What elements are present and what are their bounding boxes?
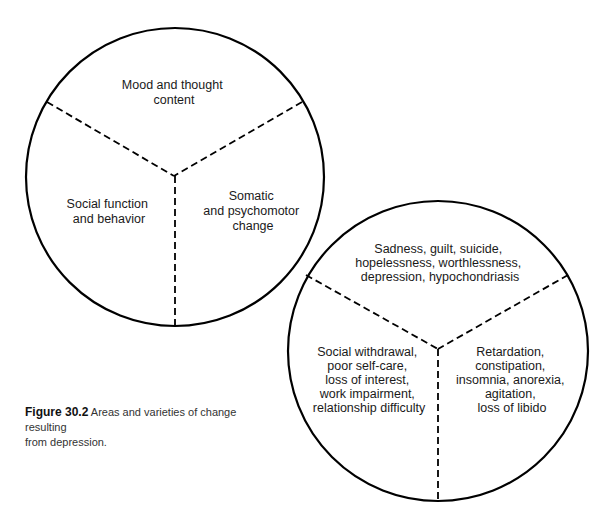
varieties-circle: Sadness, guilt, suicide, hopelessness, w… [288,201,588,501]
variety-social-function-list: Social withdrawal, poor self-care, loss … [313,345,426,415]
figure-number: Figure 30.2 [25,405,88,419]
area-social-function-label: Social function and behavior [67,197,152,226]
caption-text-line2: from depression. [25,436,107,448]
figure-caption: Figure 30.2 Areas and varieties of chang… [25,405,255,450]
areas-circle: Mood and thought content Social function… [26,28,324,326]
variety-mood-thought-list: Sadness, guilt, suicide, hopelessness, w… [355,242,525,284]
